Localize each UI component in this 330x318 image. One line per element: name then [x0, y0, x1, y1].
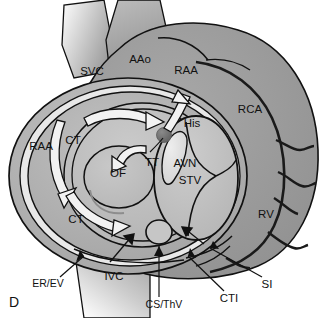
label-ct-upper: CT: [65, 134, 80, 146]
label-cti: CTI: [220, 292, 239, 304]
label-rv: RV: [258, 208, 274, 220]
label-ct-lower: CT: [68, 213, 83, 225]
label-of: OF: [110, 167, 126, 179]
label-cs-thv: CS/ThV: [146, 298, 183, 310]
heart-diagram-svg: SVC AAo RAA RCA RAA CT CT OF TT His AVN …: [0, 0, 330, 318]
coronary-sinus-ostium-group: [146, 220, 172, 244]
label-stv: STV: [179, 174, 202, 186]
label-raa-left: RAA: [29, 140, 53, 152]
label-ivc: IVC: [104, 270, 123, 282]
label-avn: AVN: [174, 157, 197, 169]
label-er-ev: ER/EV: [32, 277, 64, 289]
label-tt: TT: [145, 156, 159, 168]
label-raa-top: RAA: [174, 64, 198, 76]
label-aao: AAo: [129, 53, 151, 65]
cs-thv-ostium: [146, 220, 172, 244]
label-his: His: [184, 117, 201, 129]
label-svc: SVC: [80, 65, 104, 77]
anatomical-figure: SVC AAo RAA RCA RAA CT CT OF TT His AVN …: [0, 0, 330, 318]
label-rca: RCA: [238, 103, 263, 115]
label-si: SI: [262, 278, 273, 290]
panel-letter: D: [9, 294, 19, 310]
